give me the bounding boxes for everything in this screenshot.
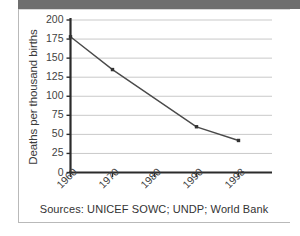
y-axis-tick-label: 75 [30, 108, 64, 120]
y-axis-tick-label: 150 [30, 51, 64, 63]
line-chart: Deaths per thousand births 0255075100125… [0, 0, 300, 236]
figure-container: Deaths per thousand births 0255075100125… [0, 0, 300, 236]
gridlines [71, 20, 273, 153]
data-point-marker [195, 125, 198, 128]
y-axis-tick-label: 200 [30, 13, 64, 25]
y-axis-tick-label: 100 [30, 89, 64, 101]
axis-lines [69, 18, 272, 173]
data-point-marker [237, 139, 240, 142]
data-point-markers [69, 35, 240, 142]
data-point-marker [69, 35, 72, 38]
data-line [71, 37, 239, 141]
series-line [71, 37, 239, 141]
y-axis-tick-label: 50 [30, 127, 64, 139]
y-axis-tick-label: 175 [30, 32, 64, 44]
data-point-marker [111, 68, 114, 71]
figure-caption: Sources: UNICEF SOWC; UNDP; World Bank [18, 203, 290, 215]
y-axis-tick-label: 25 [30, 146, 64, 158]
y-axis-tick-label: 125 [30, 70, 64, 82]
